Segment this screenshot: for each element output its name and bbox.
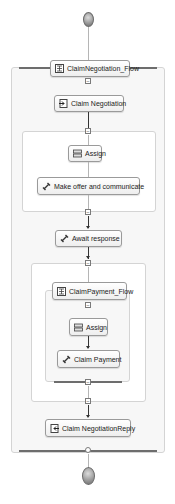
edge — [88, 162, 89, 177]
node-label: Make offer and communicate — [54, 183, 144, 190]
edge — [88, 195, 89, 209]
node-label: ClaimNegotiation_Flow — [67, 65, 139, 72]
node-label: ClaimPayment_Flow — [69, 288, 133, 295]
collapse-toggle[interactable]: – — [85, 260, 91, 266]
make-offer-node[interactable]: Make offer and communicate — [37, 177, 140, 195]
collapse-toggle[interactable]: – — [85, 78, 91, 84]
claim-negotiation-flow-node[interactable]: ClaimNegotiation_Flow — [50, 60, 130, 77]
reply-icon — [50, 424, 59, 433]
invoke-icon — [42, 182, 51, 191]
edge — [88, 386, 89, 398]
assign-icon — [74, 323, 83, 332]
assign-node-1[interactable]: Assign — [68, 145, 102, 162]
arrowhead — [86, 226, 90, 229]
flow-icon — [55, 64, 64, 73]
edge-flow-to-end — [88, 454, 89, 468]
node-label: Await response — [72, 235, 120, 242]
collapse-toggle[interactable]: – — [85, 128, 91, 134]
edge — [88, 135, 89, 145]
claim-payment-node[interactable]: Claim Payment — [57, 350, 120, 368]
assign-icon — [73, 149, 82, 158]
await-response-node[interactable]: Await response — [55, 230, 122, 247]
outer-flow-top-bar-left — [19, 67, 50, 69]
collapse-toggle[interactable]: – — [85, 209, 91, 215]
sequence-container-1[interactable] — [22, 131, 156, 212]
arrowhead — [86, 256, 90, 259]
start-node[interactable] — [83, 12, 94, 27]
node-label: Assign — [85, 150, 106, 157]
node-label: Claim Payment — [74, 356, 121, 363]
node-label: Claim NegotiationReply — [62, 425, 135, 432]
join-handle[interactable] — [85, 447, 91, 453]
collapse-toggle[interactable]: – — [85, 302, 91, 308]
collapse-toggle[interactable]: – — [85, 379, 91, 385]
end-node[interactable] — [82, 467, 95, 485]
assign-node-2[interactable]: Assign — [69, 318, 108, 336]
claim-payment-flow-node[interactable]: ClaimPayment_Flow — [52, 282, 127, 300]
flow-icon — [57, 287, 66, 296]
claim-negotiation-node[interactable]: Claim Negotiation — [54, 95, 124, 112]
edge — [88, 112, 89, 128]
claim-negotiation-reply-node[interactable]: Claim NegotiationReply — [45, 419, 131, 437]
node-label: Claim Negotiation — [71, 100, 126, 107]
collapse-toggle[interactable]: – — [85, 398, 91, 404]
node-label: Assign — [86, 324, 107, 331]
invoke-icon — [62, 355, 71, 364]
arrowhead — [86, 346, 90, 349]
edge — [88, 267, 89, 282]
edge-start-to-flow — [88, 27, 89, 60]
receive-icon — [59, 99, 68, 108]
invoke-icon — [60, 234, 69, 243]
arrowhead — [86, 415, 90, 418]
